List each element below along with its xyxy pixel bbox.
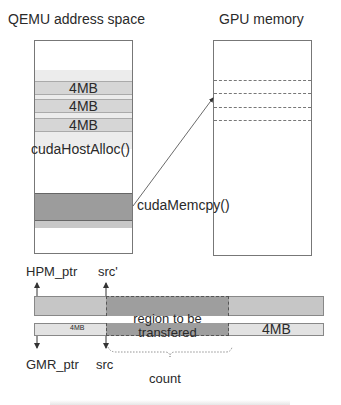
memcpy-arrow-icon <box>133 98 213 206</box>
count-brace-icon <box>108 347 232 357</box>
arrows-overlay <box>0 0 341 405</box>
